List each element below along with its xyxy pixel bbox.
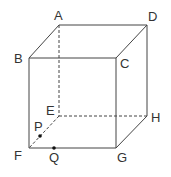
edge-GH <box>116 116 147 148</box>
label-H: H <box>151 110 160 125</box>
label-B: B <box>14 51 23 66</box>
label-E: E <box>46 103 55 118</box>
solid-edges <box>29 25 147 148</box>
edge-AB <box>29 25 59 58</box>
label-P: P <box>34 119 43 134</box>
edge-CD <box>116 25 147 58</box>
cube-figure: A B C D E F G H P Q <box>0 0 171 177</box>
label-C: C <box>120 56 129 71</box>
label-F: F <box>14 148 22 163</box>
point-P <box>38 134 42 138</box>
label-A: A <box>54 8 63 23</box>
label-G: G <box>117 150 127 165</box>
label-D: D <box>148 9 157 24</box>
cube-diagram: A B C D E F G H P Q <box>0 0 171 177</box>
label-Q: Q <box>49 150 59 165</box>
